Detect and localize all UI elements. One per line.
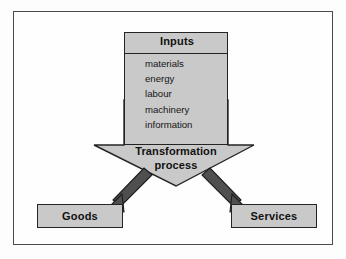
output-box-goods: Goods bbox=[37, 204, 123, 228]
output-box-services: Services bbox=[231, 204, 317, 228]
inputs-box: Inputs materials energy labour machinery… bbox=[124, 32, 228, 145]
transformation-process-line1: Transformation bbox=[108, 144, 244, 158]
figure-canvas: Inputs materials energy labour machinery… bbox=[0, 0, 346, 259]
inputs-list-item: materials bbox=[145, 56, 192, 71]
inputs-list-item: information bbox=[145, 117, 192, 132]
inputs-list-item: energy bbox=[145, 71, 192, 86]
diagram-stage: Inputs materials energy labour machinery… bbox=[0, 0, 346, 259]
transformation-process-line2: process bbox=[108, 158, 244, 172]
output-label-goods: Goods bbox=[62, 210, 98, 222]
inputs-divider bbox=[125, 53, 227, 54]
inputs-list-item: labour bbox=[145, 86, 192, 101]
output-label-services: Services bbox=[251, 210, 298, 222]
transformation-process-label: Transformation process bbox=[108, 144, 244, 172]
inputs-title: Inputs bbox=[125, 35, 229, 47]
inputs-list: materials energy labour machinery inform… bbox=[145, 56, 192, 132]
inputs-list-item: machinery bbox=[145, 102, 192, 117]
